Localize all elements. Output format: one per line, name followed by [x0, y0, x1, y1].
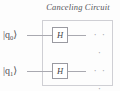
quantum-circuit-figure: Canceling Circuit |q0⟩ H · · · |q1⟩ H · …: [0, 0, 120, 91]
ket-bracket-right: ⟩: [13, 29, 17, 40]
qubit-index: 1: [10, 70, 13, 77]
qubit-index: 0: [10, 34, 13, 41]
wire-segment-in-q0: [27, 35, 52, 36]
ket-bracket-right: ⟩: [13, 65, 17, 76]
wire-segment-in-q1: [27, 71, 52, 72]
figure-title: Canceling Circuit: [42, 1, 114, 13]
wire-segment-out-q0: [68, 35, 86, 36]
qubit-label-q0: |q0⟩: [3, 27, 17, 44]
wire-segment-out-q1: [68, 71, 86, 72]
hadamard-gate-q0[interactable]: H: [52, 27, 68, 43]
qubit-label-q1: |q1⟩: [3, 63, 17, 80]
qubit-row-q1: |q1⟩ H · · ·: [0, 61, 120, 81]
continuation-ellipsis-q0: · · ·: [91, 26, 109, 62]
qubit-row-q0: |q0⟩ H · · ·: [0, 25, 120, 45]
hadamard-gate-q1[interactable]: H: [52, 63, 68, 79]
continuation-ellipsis-q1: · · ·: [91, 62, 109, 91]
